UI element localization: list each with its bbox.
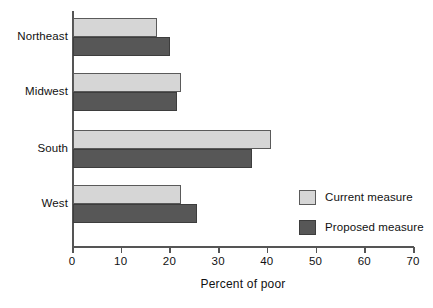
category-labels: NortheastMidwestSouthWest xyxy=(0,0,68,308)
bar-midwest-proposed-measure xyxy=(73,92,177,111)
bar-northeast-current-measure xyxy=(73,18,157,37)
legend-swatch-current-measure xyxy=(299,190,316,205)
category-label-midwest: Midwest xyxy=(2,85,68,97)
x-tick-label-10: 10 xyxy=(101,255,141,267)
legend-label-current-measure: Current measure xyxy=(325,191,413,203)
x-tick-label-30: 30 xyxy=(198,255,238,267)
x-tick-50 xyxy=(316,247,318,253)
legend-label-proposed-measure: Proposed measure xyxy=(325,221,424,233)
x-tick-label-60: 60 xyxy=(344,255,384,267)
legend-item-current-measure: Current measure xyxy=(299,186,424,208)
category-label-south: South xyxy=(2,142,68,154)
x-axis-line xyxy=(72,246,414,248)
x-tick-40 xyxy=(267,247,269,253)
x-tick-70 xyxy=(413,247,415,253)
legend-item-proposed-measure: Proposed measure xyxy=(299,216,424,238)
x-tick-60 xyxy=(364,247,366,253)
x-axis-title: Percent of poor xyxy=(73,277,413,291)
x-tick-label-40: 40 xyxy=(247,255,287,267)
category-label-west: West xyxy=(2,197,68,209)
bar-west-current-measure xyxy=(73,185,181,204)
category-label-northeast: Northeast xyxy=(2,30,68,42)
legend-swatch-proposed-measure xyxy=(299,220,316,235)
x-tick-label-70: 70 xyxy=(393,255,433,267)
bar-west-proposed-measure xyxy=(73,204,197,223)
bar-south-proposed-measure xyxy=(73,149,252,168)
x-tick-10 xyxy=(121,247,123,253)
x-tick-0 xyxy=(72,247,74,253)
bar-midwest-current-measure xyxy=(73,73,181,92)
bar-northeast-proposed-measure xyxy=(73,37,170,56)
bar-chart: 010203040506070 NortheastMidwestSouthWes… xyxy=(0,0,433,308)
bar-south-current-measure xyxy=(73,130,271,149)
x-tick-20 xyxy=(169,247,171,253)
x-tick-label-20: 20 xyxy=(149,255,189,267)
x-tick-label-50: 50 xyxy=(296,255,336,267)
x-tick-30 xyxy=(218,247,220,253)
chart-legend: Current measure Proposed measure xyxy=(299,186,424,246)
